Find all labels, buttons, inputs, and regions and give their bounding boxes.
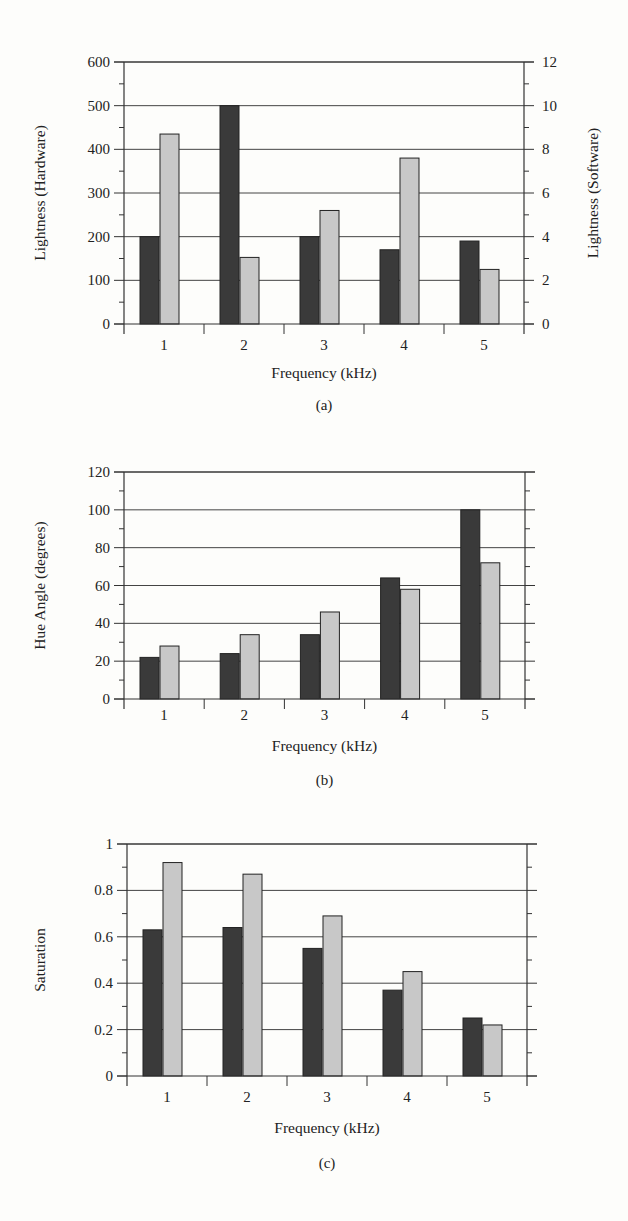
- bar-hardware-1: [143, 930, 162, 1076]
- bar-hardware-2: [223, 928, 242, 1076]
- y-tick-label: 0.8: [94, 882, 113, 898]
- y-tick-label: 0.4: [94, 975, 113, 991]
- bar-software-1: [163, 863, 182, 1076]
- y-tick-label: 1: [106, 836, 114, 852]
- bar-software-2: [243, 874, 262, 1076]
- x-tick-label: 5: [483, 1089, 491, 1105]
- x-tick-label: 3: [323, 1089, 331, 1105]
- y-axis-title: Saturation: [31, 928, 48, 992]
- y-tick-label: 0.6: [94, 929, 113, 945]
- y-tick-label: 0.2: [94, 1022, 113, 1038]
- chart-c-saturation: 1234500.20.40.60.81SaturationFrequency (…: [0, 0, 628, 1221]
- x-tick-label: 2: [243, 1089, 251, 1105]
- bar-software-5: [483, 1025, 502, 1076]
- x-tick-label: 4: [403, 1089, 411, 1105]
- y-tick-label: 0: [106, 1068, 114, 1084]
- x-axis-title: Frequency (kHz): [274, 1119, 379, 1137]
- bar-software-3: [323, 916, 342, 1076]
- bar-hardware-5: [463, 1018, 482, 1076]
- bar-hardware-4: [383, 990, 402, 1076]
- bar-software-4: [403, 972, 422, 1076]
- panel-caption: (c): [319, 1155, 336, 1172]
- x-tick-label: 1: [163, 1089, 171, 1105]
- plot-area: 1234500.20.40.60.81SaturationFrequency (…: [31, 836, 537, 1172]
- bar-hardware-3: [303, 948, 322, 1076]
